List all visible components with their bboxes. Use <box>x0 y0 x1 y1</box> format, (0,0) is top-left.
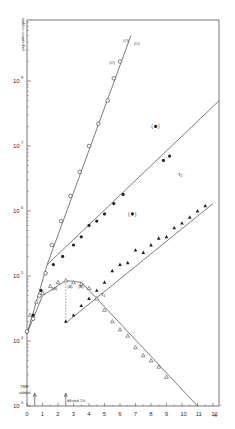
svg-text:10: 10 <box>13 143 20 149</box>
svg-text:(: ( <box>151 123 153 129</box>
tau1-label: τ₁ <box>101 291 105 297</box>
svg-text:4: 4 <box>21 335 24 340</box>
svg-text:8: 8 <box>149 411 153 417</box>
svg-text:5: 5 <box>103 411 107 417</box>
svg-text:9: 9 <box>165 411 169 417</box>
svg-text:): ) <box>158 123 160 129</box>
svg-text:0: 0 <box>25 411 29 417</box>
axis-ticks: 0123456789101112103104105106107108 <box>13 22 221 417</box>
data-points: ()() <box>25 60 207 379</box>
svg-text:5: 5 <box>21 270 24 275</box>
plot-frame <box>27 20 219 406</box>
svg-text:): ) <box>135 211 137 217</box>
svg-text:8: 8 <box>21 75 24 80</box>
svg-text:4: 4 <box>87 411 91 417</box>
svg-text:7: 7 <box>21 140 24 145</box>
svg-text:(Δ): (Δ) <box>52 286 58 291</box>
tmp-label-1: TMP <box>20 384 29 389</box>
svg-text:(O): (O) <box>123 38 129 43</box>
diluted-label: diluted 1:k <box>67 398 85 403</box>
annotations: (O)(O)(O)(Δ)(Δ)(Δ) <box>52 38 141 292</box>
growth-curve-chart: 0123456789101112103104105106107108 ()() … <box>0 0 235 429</box>
svg-text:10: 10 <box>180 411 187 417</box>
svg-text:3: 3 <box>21 400 24 405</box>
tau2-label: τ₂ <box>178 171 183 177</box>
svg-text:7: 7 <box>134 411 138 417</box>
tmp-label-2: added <box>19 390 30 395</box>
x-axis-unit: h <box>214 412 217 418</box>
svg-text:(: ( <box>128 211 130 217</box>
svg-text:6: 6 <box>21 205 24 210</box>
svg-text:(Δ): (Δ) <box>78 284 84 289</box>
svg-text:10: 10 <box>13 403 20 409</box>
y-axis-label: viables counted/ml <box>21 18 26 51</box>
chart-canvas: 0123456789101112103104105106107108 ()() … <box>0 0 235 429</box>
svg-text:10: 10 <box>13 273 20 279</box>
fit-lines <box>27 36 219 406</box>
svg-text:(O): (O) <box>109 60 115 65</box>
svg-text:(O): (O) <box>134 41 140 46</box>
svg-text:1: 1 <box>41 411 45 417</box>
svg-text:3: 3 <box>72 411 76 417</box>
svg-text:10: 10 <box>13 208 20 214</box>
svg-text:10: 10 <box>13 338 20 344</box>
svg-text:(Δ): (Δ) <box>67 284 73 289</box>
svg-text:2: 2 <box>56 411 60 417</box>
svg-text:10: 10 <box>13 78 20 84</box>
svg-text:6: 6 <box>118 411 122 417</box>
svg-text:11: 11 <box>196 411 203 417</box>
